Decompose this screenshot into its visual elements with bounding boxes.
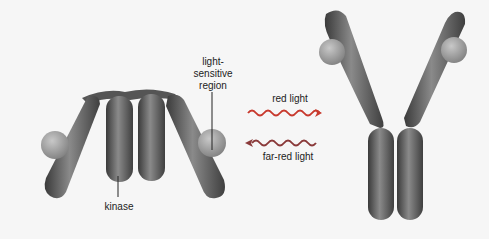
chromophore-right-active [441,37,467,63]
chromophore-left-active [319,39,345,65]
far-red-light-label: far-red light [248,151,328,163]
inactive-phytochrome [41,89,226,198]
chromophore-left [41,131,69,159]
red-light-arrow [248,109,322,117]
diagram-graphics [0,0,489,239]
label-line-3: region [190,80,236,92]
kinase-label: kinase [98,201,140,213]
label-line-2: sensitive [190,68,236,80]
light-sensitive-region-label: light- sensitive region [190,56,236,92]
red-light-label: red light [260,93,320,105]
active-phytochrome [319,10,467,220]
label-line-1: light- [190,56,236,68]
far-red-light-arrow [245,139,316,147]
phytochrome-diagram: light- sensitive region kinase red light… [0,0,489,239]
